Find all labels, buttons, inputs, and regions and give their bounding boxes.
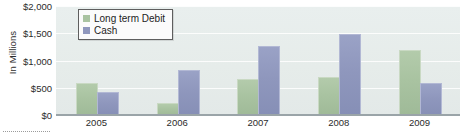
legend-item: Cash (83, 24, 165, 36)
x-tick-label: 2006 (167, 117, 188, 128)
legend-label: Long term Debit (94, 13, 165, 24)
x-axis-tick-labels: 20052006200720082009 (56, 117, 460, 133)
x-tick-label: 2007 (247, 117, 268, 128)
x-axis-line (56, 114, 460, 116)
bar-group (218, 6, 299, 115)
bar (339, 34, 361, 115)
legend-swatch-icon (83, 15, 90, 22)
legend-swatch-icon (83, 27, 90, 34)
dotted-rule (3, 131, 50, 132)
legend-item: Long term Debit (83, 12, 165, 24)
bar-chart: In Millions $0$500$1,000$1,500$2,000 Lon… (0, 0, 469, 140)
bar (258, 46, 280, 115)
bar (178, 70, 200, 115)
y-tick-label: $0 (41, 110, 52, 121)
x-tick-label: 2005 (86, 117, 107, 128)
y-tick-label: $2,000 (23, 1, 52, 12)
bar (318, 77, 340, 115)
legend: Long term DebitCash (78, 9, 173, 40)
bar-group (298, 6, 379, 115)
y-tick-label: $1,000 (23, 55, 52, 66)
bar (76, 83, 98, 115)
bar (420, 83, 442, 115)
x-tick-label: 2009 (409, 117, 430, 128)
y-tick-label: $1,500 (23, 28, 52, 39)
y-axis-tick-labels: $0$500$1,000$1,500$2,000 (0, 0, 55, 118)
bar (399, 50, 421, 115)
legend-label: Cash (94, 25, 117, 36)
bar-group (379, 6, 460, 115)
bar (97, 92, 119, 115)
x-tick-label: 2008 (328, 117, 349, 128)
y-tick-label: $500 (31, 82, 52, 93)
bar (237, 79, 259, 115)
